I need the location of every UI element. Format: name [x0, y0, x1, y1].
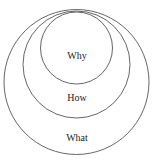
label-why: Why — [67, 50, 86, 61]
inner-circle-why — [41, 12, 113, 84]
label-how: How — [67, 92, 87, 103]
label-what: What — [66, 132, 88, 143]
golden-circle-diagram: Why How What — [0, 0, 153, 165]
